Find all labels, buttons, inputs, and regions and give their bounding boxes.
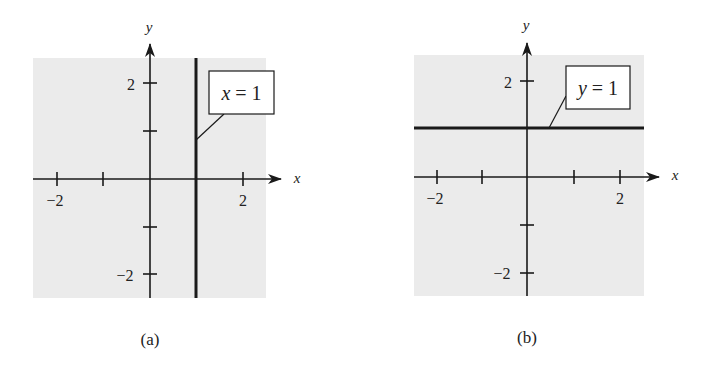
y-axis-label-a: y bbox=[144, 19, 153, 35]
x-tick-label-2-b: 2 bbox=[616, 190, 624, 207]
panel-b: y = 1 y x −2 2 2 −2 (b) bbox=[414, 17, 679, 347]
y-tick-label-2-a: 2 bbox=[127, 76, 135, 93]
y-tick-label-2-b: 2 bbox=[504, 74, 512, 91]
y-tick-label-neg2-a: −2 bbox=[116, 267, 133, 284]
figure: x = 1 y x −2 2 2 −2 (a) bbox=[0, 0, 708, 373]
x-tick-label-neg2-b: −2 bbox=[426, 190, 443, 207]
callout-label-b: y = 1 bbox=[576, 77, 618, 100]
caption-a: (a) bbox=[141, 330, 160, 349]
x-axis-label-b: x bbox=[671, 167, 679, 183]
y-axis-label-b: y bbox=[521, 17, 530, 33]
y-tick-label-neg2-b: −2 bbox=[493, 265, 510, 282]
panel-a: x = 1 y x −2 2 2 −2 (a) bbox=[33, 19, 301, 349]
x-axis-label-a: x bbox=[293, 170, 301, 186]
caption-b: (b) bbox=[517, 328, 537, 347]
callout-label-a: x = 1 bbox=[220, 82, 261, 104]
x-tick-label-neg2-a: −2 bbox=[46, 192, 63, 209]
x-tick-label-2-a: 2 bbox=[239, 192, 247, 209]
